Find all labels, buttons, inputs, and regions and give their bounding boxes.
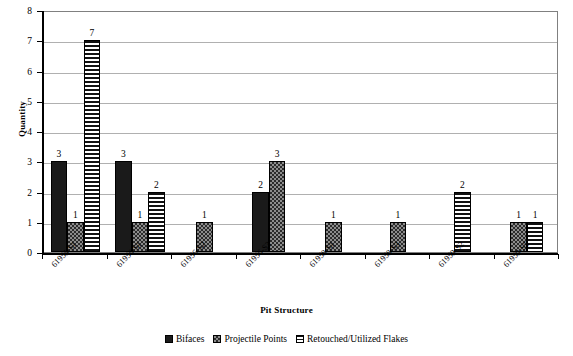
bar[interactable] [115,161,132,252]
legend-entry[interactable]: Retouched/Utilized Flakes [296,334,408,344]
y-tick-label: 6 [16,67,32,77]
legend-swatch-icon [165,335,173,343]
bar[interactable] [51,161,68,252]
y-axis-line [42,11,44,254]
x-tick-mark [558,254,559,259]
x-tick-mark [365,254,366,259]
x-tick-mark [42,254,43,259]
x-tick-mark [171,254,172,259]
bar-value-label: 1 [384,210,413,220]
bar-value-label: 2 [448,180,477,190]
gridline [43,103,557,104]
bar-value-label: 7 [78,28,107,38]
chart-legend: BifacesProjectile PointsRetouched/Utiliz… [0,334,573,344]
y-tick-label: 0 [16,248,32,258]
legend-swatch-icon [213,335,221,343]
y-axis-title: Quantity [17,79,27,159]
y-tick-label: 2 [16,188,32,198]
x-axis-title: Pit Structure [0,305,573,315]
legend-label: Projectile Points [224,334,287,344]
legend-swatch-icon [296,335,304,343]
bar-value-label: 3 [45,149,74,159]
bar-value-label: 1 [521,210,550,220]
y-tick-label: 8 [16,6,32,16]
y-tick-label: 5 [16,97,32,107]
x-tick-mark [429,254,430,259]
bar-value-label: 2 [142,180,171,190]
y-tick-label: 7 [16,36,32,46]
x-tick-mark [236,254,237,259]
gridline [43,73,557,74]
bar[interactable] [269,161,286,252]
bar[interactable] [84,40,101,252]
legend-entry[interactable]: Bifaces [165,334,205,344]
legend-entry[interactable]: Projectile Points [213,334,287,344]
bar-value-label: 1 [319,210,348,220]
bar-value-label: 3 [109,149,138,159]
x-tick-mark [300,254,301,259]
gridline [43,133,557,134]
bar-chart: Quantity 012345678 31731212311211 61955-… [0,0,573,356]
bar[interactable] [148,192,165,253]
bar-value-label: 1 [190,210,219,220]
bar-value-label: 3 [263,149,292,159]
legend-label: Retouched/Utilized Flakes [307,334,408,344]
plot-area: 31731212311211 [42,11,558,253]
x-tick-mark [107,254,108,259]
legend-label: Bifaces [176,334,205,344]
y-tick-label: 3 [16,157,32,167]
x-tick-mark [494,254,495,259]
y-tick-label: 1 [16,218,32,228]
y-tick-label: 4 [16,127,32,137]
gridline [43,42,557,43]
